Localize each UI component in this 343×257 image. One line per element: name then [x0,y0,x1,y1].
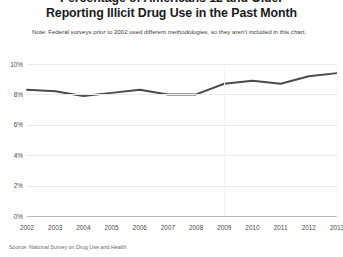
y-tick-label-6pct: 6% [14,121,23,128]
title-line-2: Reporting Illicit Drug Use in the Past M… [0,6,343,21]
series-line-illicit-drug-use [27,64,337,216]
chart-area: 0%2%4%6%8%10% [0,56,343,224]
x-tick-label-2009: 2009 [217,224,231,232]
y-axis-labels: 0%2%4%6%8%10% [0,64,23,216]
x-tick-label-2011: 2011 [274,224,288,232]
chart-source: Source: National Survey on Drug Use and … [9,243,126,251]
x-tick-label-2006: 2006 [133,224,147,232]
gridline-8 [27,94,337,95]
gridline-6 [27,125,337,126]
y-tick-label-2pct: 2% [14,182,23,189]
vertical-gridline-2013 [337,64,338,216]
x-tick-label-2012: 2012 [302,224,316,232]
x-axis-labels: 2002200320042005200620072008200920102011… [27,224,337,236]
vertical-gridline-2009 [224,64,225,216]
plot-area [27,64,337,216]
x-tick-label-2008: 2008 [189,224,203,232]
gridline-4 [27,155,337,156]
y-tick-label-8pct: 8% [14,91,23,98]
y-tick-label-4pct: 4% [14,152,23,159]
x-tick-label-2007: 2007 [161,224,175,232]
y-tick-label-10pct: 10% [10,61,23,68]
gridline-2 [27,186,337,187]
chart-note: Note: Federal surveys prior to 2002 used… [32,28,324,37]
page-title: Percentage of Americans 12 and Older Rep… [0,0,343,21]
gridline-10 [27,64,337,65]
x-tick-label-2004: 2004 [76,224,90,232]
x-tick-label-2013: 2013 [330,224,343,232]
chart-page: Percentage of Americans 12 and Older Rep… [0,0,343,257]
y-tick-label-0pct: 0% [14,213,23,220]
x-tick-label-2002: 2002 [20,224,34,232]
x-tick-label-2005: 2005 [104,224,118,232]
line-series-0 [27,73,337,96]
x-tick-label-2010: 2010 [245,224,259,232]
gridline-0 [27,216,337,217]
x-tick-label-2003: 2003 [48,224,62,232]
